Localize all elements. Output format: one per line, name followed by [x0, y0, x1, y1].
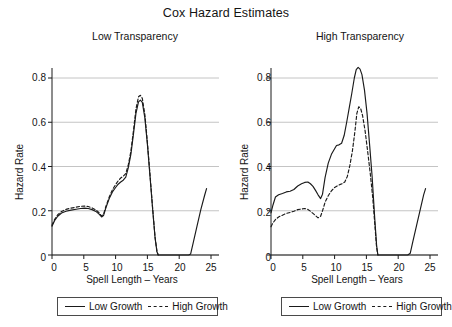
series-line-low-growth	[52, 100, 207, 255]
solid-line-icon	[289, 306, 309, 307]
panel-high-transparency: High Transparency Hazard Rate Spell Leng…	[226, 0, 452, 290]
dashed-line-icon	[372, 306, 392, 307]
legend-label: High Growth	[172, 301, 228, 312]
legend-entry-high-growth: High Growth	[148, 301, 228, 312]
legend-label: Low Growth	[89, 301, 142, 312]
legend-label: High Growth	[396, 301, 452, 312]
legend-high-transparency: Low Growth High Growth	[281, 297, 442, 316]
cox-hazard-chart: Cox Hazard Estimates Low Transparency Ha…	[0, 0, 452, 327]
series-line-low-growth	[271, 67, 426, 255]
dashed-line-icon	[148, 306, 168, 307]
panel-low-transparency: Low Transparency Hazard Rate Spell Lengt…	[0, 0, 226, 290]
legend-label: Low Growth	[313, 301, 366, 312]
legend-entry-high-growth: High Growth	[372, 301, 452, 312]
legend-entry-low-growth: Low Growth	[289, 301, 366, 312]
series-line-high-growth	[52, 95, 158, 255]
plot-area-high-transparency	[226, 0, 452, 290]
plot-area-low-transparency	[0, 0, 226, 290]
legend-low-transparency: Low Growth High Growth	[57, 297, 218, 316]
solid-line-icon	[65, 306, 85, 307]
legend-entry-low-growth: Low Growth	[65, 301, 142, 312]
